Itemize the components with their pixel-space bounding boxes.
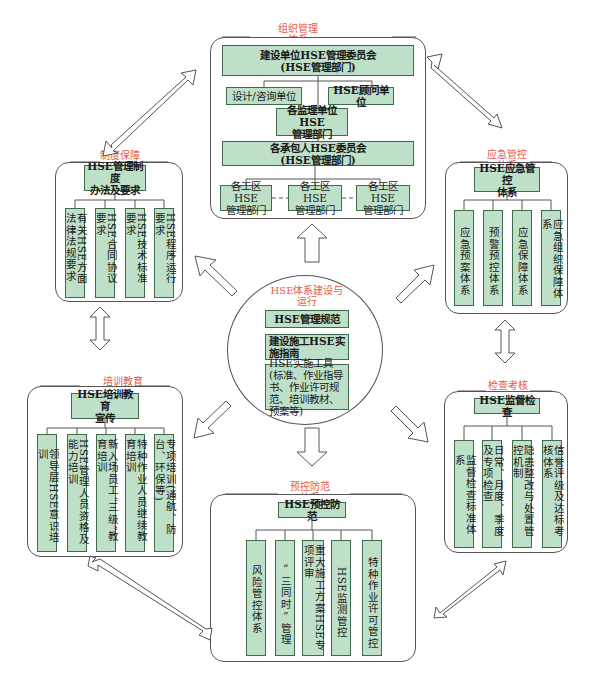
training-head-box: HSE培训教育宣传 <box>71 393 139 419</box>
institution-item-2: HSE合同协议要求 <box>95 208 115 298</box>
inspection-head-box: HSE监督检查 <box>474 398 540 414</box>
arrow-up-right-icon <box>396 265 434 303</box>
double-arrow-emergency-inspection-icon <box>495 320 515 363</box>
center-item-3: HSE实施工具(标准、作业指导书、作业许可规范、培训教材、预案等) <box>265 364 349 410</box>
prevention-head-box: HSE预控防范 <box>278 502 346 518</box>
center-title: HSE体系建设与运行 <box>265 285 349 307</box>
prevention-item-1: 风险管控体系 <box>246 540 266 656</box>
inspection-item-2: 日常、月度、季度及专项检查 <box>482 440 502 548</box>
arrow-down-left-icon <box>194 401 231 438</box>
inspection-item-4: 信誉评级及达标考核体系 <box>542 440 562 548</box>
institution-item-3: HSE技术标准要求 <box>125 208 145 298</box>
emergency-item-4: 应急组织保障体系 <box>541 210 561 306</box>
double-arrow-institution-org-icon <box>103 70 196 156</box>
emergency-item-3: 应急保障体系 <box>512 210 532 306</box>
double-arrow-training-prevention-icon <box>88 556 212 640</box>
organization-top-box: 建设单位HSE管理委员会(HSE管理部门) <box>222 45 414 76</box>
emergency-head-box: HSE应急管控体系 <box>474 167 540 192</box>
training-item-3: 新入场员工“三级”教育培训 <box>96 434 116 552</box>
contractor-box: 各承包人HSE委员会(HSE管理部门) <box>222 141 414 166</box>
work-area-box-1: 各工区HSE管理部门 <box>220 185 272 211</box>
prevention-item-3: 重大施工方案HSE专项评审 <box>302 540 324 656</box>
double-arrow-org-emergency-icon <box>427 54 502 128</box>
inspection-item-3: 隐患整改与处置管控机制 <box>512 440 532 548</box>
center-item-1: HSE管理规范 <box>265 310 349 328</box>
prevention-item-5: 特种作业许可管控 <box>362 540 382 656</box>
emergency-item-2: 预警预控体系 <box>483 210 503 306</box>
prevention-item-4: HSE监测管控 <box>331 540 351 656</box>
supervisor-box: 各监理单位HSE管理部门 <box>276 108 348 136</box>
institution-item-4: HSE程序运行要求 <box>154 208 174 298</box>
institution-head-box: HSE管理制度办法及要求 <box>84 165 146 191</box>
double-arrow-inspection-prevention-icon <box>434 561 506 618</box>
training-item-2: HSE管理人员资格及能力培训 <box>67 434 87 552</box>
design-consult-box: 设计/咨询单位 <box>226 87 302 105</box>
training-item-5: 专项培训(通航、防台、环保等) <box>154 434 174 552</box>
hse-advisor-box: HSE顾问单位 <box>328 87 394 105</box>
institution-item-1: 有关HSE方面法律法规要求 <box>65 208 85 298</box>
emergency-item-1: 应急预案体系 <box>454 210 474 306</box>
arrow-down-right-icon <box>391 406 428 442</box>
prevention-item-2: “三同时”管理 <box>275 540 295 656</box>
work-area-box-2: 各工区HSE管理部门 <box>288 185 342 211</box>
arrow-up-left-icon <box>195 256 237 296</box>
double-arrow-institution-training-icon <box>90 307 110 350</box>
arrow-up-icon <box>297 224 327 262</box>
training-item-4: 特种作业人员继续教育培训 <box>125 434 145 552</box>
inspection-item-1: 监督检查标准体系 <box>454 440 474 548</box>
arrow-down-icon <box>297 428 327 466</box>
work-area-box-3: 各工区HSE管理部门 <box>356 185 410 211</box>
training-item-1: 领导层HSE意识培训 <box>37 434 57 552</box>
